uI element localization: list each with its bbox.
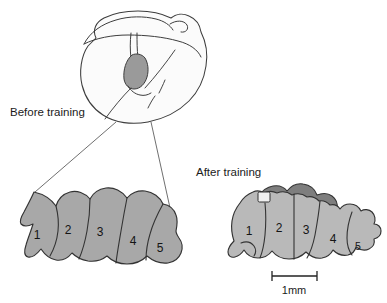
before-training-label: Before training bbox=[10, 106, 85, 118]
after-region-label-5: 5 bbox=[355, 240, 361, 252]
scale-bar: 1mm bbox=[272, 271, 317, 296]
after-region-label-2: 2 bbox=[276, 221, 283, 235]
before-region-label-5: 5 bbox=[157, 241, 164, 255]
after-region-label-3: 3 bbox=[303, 223, 310, 237]
after-map-notch bbox=[258, 192, 270, 202]
brain-diagram bbox=[81, 11, 207, 123]
after-region-label-4: 4 bbox=[330, 232, 337, 246]
cortical-map-after-training: 1 2 3 4 5 bbox=[228, 184, 381, 259]
after-training-label: After training bbox=[196, 166, 261, 178]
before-region-label-2: 2 bbox=[65, 223, 72, 237]
leader-line-left bbox=[35, 122, 116, 192]
before-region-label-1: 1 bbox=[34, 228, 41, 242]
before-region-label-3: 3 bbox=[97, 225, 104, 239]
before-region-label-4: 4 bbox=[130, 234, 137, 248]
after-region-label-1: 1 bbox=[246, 224, 253, 238]
cortical-map-before-training: 1 2 3 4 5 bbox=[20, 188, 182, 264]
scale-bar-label: 1mm bbox=[282, 284, 306, 296]
figure-canvas: Before training After training 1 2 3 4 5 bbox=[0, 0, 387, 303]
